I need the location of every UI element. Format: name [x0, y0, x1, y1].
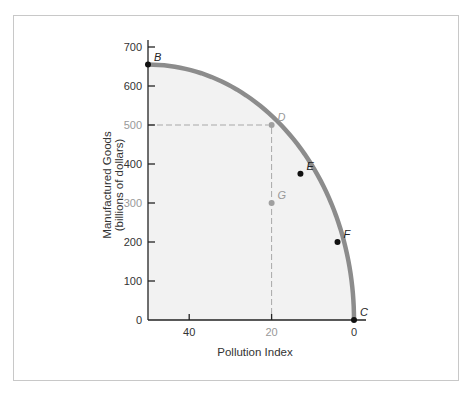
y-axis-label-line1: Manufactured Goods — [101, 131, 113, 238]
y-tick-label: 600 — [124, 80, 142, 92]
y-tick-label: 400 — [124, 158, 142, 170]
x-tick-label: 40 — [183, 326, 195, 338]
point-e-marker — [297, 171, 303, 177]
y-axis-label: Manufactured Goods (billions of dollars) — [101, 131, 125, 238]
y-tick-label: 200 — [124, 236, 142, 248]
point-g-label: G — [278, 189, 287, 201]
x-tick-label: 0 — [351, 326, 357, 338]
point-b-label: B — [154, 51, 161, 63]
point-f-marker — [335, 239, 341, 245]
feasible-region-fill — [148, 65, 354, 320]
ppf-chart: 010020030040050060070040200 BDEFCG — [0, 0, 472, 394]
feasible-region — [148, 65, 354, 320]
point-d-marker — [269, 122, 275, 128]
y-tick-label: 700 — [124, 41, 142, 53]
point-c-marker — [351, 317, 357, 323]
point-b-marker — [145, 62, 151, 68]
point-g-marker — [269, 200, 275, 206]
y-tick-label: 0 — [136, 314, 142, 326]
y-axis-label-line2: (billions of dollars) — [113, 131, 125, 238]
x-axis-label: Pollution Index — [217, 346, 292, 358]
point-f-label: F — [344, 228, 352, 240]
y-tick-label: 500 — [124, 119, 142, 131]
x-tick-label: 20 — [265, 326, 277, 338]
y-tick-label: 100 — [124, 275, 142, 287]
point-e-label: E — [306, 160, 314, 172]
point-c-label: C — [360, 306, 368, 318]
y-tick-label: 300 — [124, 197, 142, 209]
point-d-label: D — [278, 111, 286, 123]
